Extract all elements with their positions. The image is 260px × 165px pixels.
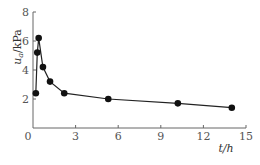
data-point <box>105 96 112 103</box>
y-axis-label: ua/kPa <box>11 29 25 65</box>
data-point <box>35 35 42 42</box>
x-axis-label: t/h <box>218 142 233 155</box>
y-tick-label: 8 <box>22 6 29 19</box>
x-tick-label: 15 <box>239 130 253 143</box>
y-tick-label: 4 <box>22 64 29 77</box>
data-point <box>61 90 68 97</box>
x-tick-label: 3 <box>72 130 79 143</box>
data-point <box>40 64 47 71</box>
data-point <box>33 90 40 97</box>
x-tick-label: 9 <box>157 130 164 143</box>
y-tick-label: 2 <box>22 93 29 106</box>
data-line <box>36 38 232 108</box>
x-tick-label: 12 <box>196 130 210 143</box>
x-tick-label: 6 <box>115 130 122 143</box>
x-tick-label: 0 <box>25 130 32 143</box>
line-chart: 036912152468ua/kPat/h <box>0 0 260 165</box>
data-point <box>175 100 182 107</box>
data-point <box>47 78 54 85</box>
data-point <box>34 49 41 56</box>
data-point <box>229 104 236 111</box>
